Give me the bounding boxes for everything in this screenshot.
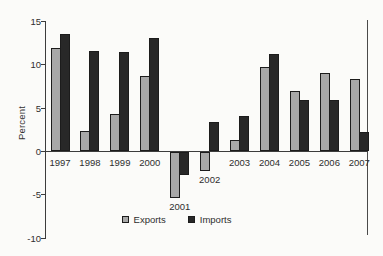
y-tick-15 — [41, 21, 45, 22]
bar-imports-2007 — [359, 132, 369, 151]
y-tick--10 — [41, 238, 45, 239]
y-tick-label-5: 5 — [19, 103, 41, 114]
exports-legend-swatch — [122, 216, 129, 223]
bar-imports-2000 — [149, 38, 159, 151]
y-tick-label-0: 0 — [19, 146, 41, 157]
x-label-2007: 2007 — [341, 158, 377, 168]
legend-item-imports: Imports — [188, 214, 232, 225]
bar-imports-1998 — [89, 51, 99, 151]
y-tick-label--5: -5 — [19, 189, 41, 200]
bar-imports-2003 — [239, 116, 249, 152]
y-axis-line — [45, 21, 46, 239]
bar-chart-figure: Percent 151050-5-10 19971998199920002001… — [0, 0, 383, 256]
legend: Exports Imports — [0, 214, 353, 225]
bar-imports-2002 — [209, 122, 219, 151]
bar-imports-2004 — [269, 54, 279, 152]
bar-imports-1997 — [60, 34, 70, 152]
bar-imports-2005 — [299, 100, 309, 151]
bar-imports-2001 — [179, 152, 189, 175]
x-label-2001: 2001 — [162, 202, 198, 212]
bar-imports-2006 — [329, 100, 339, 152]
x-label-2000: 2000 — [132, 158, 168, 168]
y-tick-label-10: 10 — [19, 59, 41, 70]
legend-label-exports: Exports — [134, 214, 166, 225]
y-tick-label--10: -10 — [19, 233, 41, 244]
y-tick-10 — [41, 64, 45, 65]
y-tick-5 — [41, 108, 45, 109]
bar-imports-1999 — [119, 52, 129, 152]
bar-exports-2002 — [200, 152, 210, 172]
y-tick--5 — [41, 194, 45, 195]
y-tick-label-15: 15 — [19, 16, 41, 27]
x-label-2002: 2002 — [192, 175, 228, 185]
right-frame-line — [367, 20, 368, 235]
legend-item-exports: Exports — [122, 214, 166, 225]
legend-label-imports: Imports — [200, 214, 232, 225]
imports-legend-swatch — [188, 216, 195, 223]
x-axis-baseline — [45, 151, 368, 152]
